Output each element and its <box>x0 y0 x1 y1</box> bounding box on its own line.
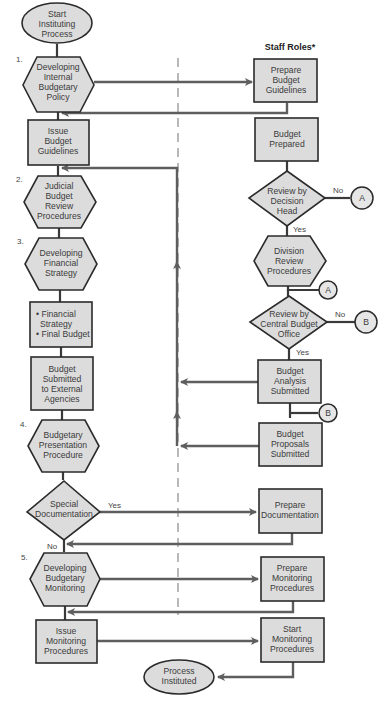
bullet-item: • Financial <box>36 309 76 319</box>
developing-monitoring-hexagon[interactable]: Developing Budgetary Monitoring <box>30 553 100 606</box>
node-label: Decision <box>271 196 304 206</box>
connector-a-out[interactable]: A <box>351 187 373 209</box>
node-label: Guidelines <box>38 146 79 156</box>
node-label: Start <box>283 624 302 634</box>
node-label: Documentation <box>35 509 93 519</box>
node-label: Special <box>50 499 78 509</box>
node-label: Budget <box>276 429 304 439</box>
bullet-item: Strategy <box>40 319 73 329</box>
strategy-output-box[interactable]: • Financial Strategy • Final Budget <box>30 302 92 347</box>
prepare-budget-guidelines-box[interactable]: Prepare Budget Guidelines <box>254 59 317 102</box>
connector-b-out[interactable]: B <box>355 311 377 333</box>
step-number-2: 2. <box>16 175 23 184</box>
node-label: Review by <box>269 309 309 319</box>
budget-proposals-submitted-box[interactable]: Budget Proposals Submitted <box>259 423 322 466</box>
node-label: Prepare <box>271 65 302 75</box>
node-label: Developing <box>44 563 87 573</box>
node-label: Internal <box>44 72 73 82</box>
staff-roles-heading: Staff Roles* <box>265 42 316 52</box>
yes-label: Yes <box>108 501 121 510</box>
node-label: Analysis <box>274 376 306 386</box>
node-label: Presentation <box>39 440 87 450</box>
node-label: Budget <box>48 364 76 374</box>
node-label: Review <box>45 201 74 211</box>
yes-label: Yes <box>296 348 309 357</box>
step-number-1: 1. <box>16 55 23 64</box>
node-label: Review <box>275 256 304 266</box>
connector-b-in[interactable]: B <box>319 404 337 422</box>
connector-label: A <box>325 285 331 295</box>
node-label: Budget <box>45 191 73 201</box>
node-label: Instituting <box>39 19 76 29</box>
node-label: Budgetary <box>45 573 85 583</box>
node-label: Submitted <box>43 374 82 384</box>
developing-financial-strategy-hexagon[interactable]: Developing Financial Strategy <box>25 238 97 290</box>
special-documentation-decision[interactable]: Special Documentation <box>27 481 100 540</box>
node-label: Procedures <box>44 646 88 656</box>
review-decision-head-decision[interactable]: Review by Decision Head <box>249 171 325 226</box>
issue-monitoring-box[interactable]: Issue Monitoring Procedures <box>36 620 97 663</box>
node-label: Proposals <box>271 439 309 449</box>
judicial-review-hexagon[interactable]: Judicial Budget Review Procedures <box>24 176 96 228</box>
node-label: Financial <box>44 258 78 268</box>
connector-label: A <box>359 193 365 203</box>
budget-analysis-submitted-box[interactable]: Budget Analysis Submitted <box>258 360 321 403</box>
start-monitoring-procedures-box[interactable]: Start Monitoring Procedures <box>261 618 324 662</box>
node-label: Office <box>278 329 301 339</box>
node-label: Developing <box>40 248 83 258</box>
no-label: No <box>333 186 344 195</box>
node-label: Strategy <box>45 268 78 278</box>
node-label: Issue <box>56 626 77 636</box>
review-central-budget-office-decision[interactable]: Review by Central Budget Office <box>250 296 327 349</box>
node-label: Budgetary <box>43 430 83 440</box>
node-label: Policy <box>47 92 71 102</box>
prepare-monitoring-procedures-box[interactable]: Prepare Monitoring Procedures <box>261 557 324 601</box>
end-terminal[interactable]: Process Instituted <box>144 660 214 694</box>
no-label: No <box>47 542 58 551</box>
node-label: Budget <box>276 366 304 376</box>
division-review-hexagon[interactable]: Division Review Procedures <box>254 236 326 286</box>
node-label: Start <box>48 9 67 19</box>
budget-submitted-external-box[interactable]: Budget Submitted to External Agencies <box>31 357 93 410</box>
node-label: Monitoring <box>272 573 312 583</box>
node-label: Central Budget <box>260 319 318 329</box>
budget-process-flowchart: Staff Roles* 1. 2. 3. 4. 5. Start Instit… <box>0 0 383 701</box>
node-label: Issue <box>48 126 69 136</box>
yes-label: Yes <box>293 225 306 234</box>
node-label: Procedures <box>270 644 314 654</box>
node-label: Budget <box>44 136 72 146</box>
node-label: Instituted <box>162 676 197 686</box>
developing-internal-policy-hexagon[interactable]: Developing Internal Budgetary Policy <box>23 57 94 112</box>
node-label: Division <box>274 246 304 256</box>
node-label: Review by <box>267 186 307 196</box>
node-label: Budget <box>272 75 300 85</box>
node-label: Procedure <box>43 450 83 460</box>
prepare-documentation-box[interactable]: Prepare Documentation <box>259 489 322 533</box>
node-label: Monitoring <box>272 634 312 644</box>
step-number-3: 3. <box>17 237 24 246</box>
node-label: Prepare <box>275 500 306 510</box>
node-label: Monitoring <box>45 583 85 593</box>
start-terminal[interactable]: Start Instituting Process <box>22 3 92 43</box>
node-label: Budgetary <box>38 82 78 92</box>
node-label: Submitted <box>271 449 310 459</box>
node-label: Judicial <box>45 181 74 191</box>
node-label: Procedures <box>267 266 311 276</box>
step-number-5: 5. <box>21 553 28 562</box>
node-label: Agencies <box>44 394 79 404</box>
issue-budget-guidelines-box[interactable]: Issue Budget Guidelines <box>28 120 89 165</box>
node-label: Process <box>163 666 194 676</box>
node-label: Submitted <box>271 386 310 396</box>
connector-label: B <box>363 317 369 327</box>
node-label: Developing <box>37 62 80 72</box>
node-label: Procedures <box>270 583 314 593</box>
node-label: Budget <box>273 129 301 139</box>
node-label: Prepared <box>269 139 305 149</box>
budget-prepared-box[interactable]: Budget Prepared <box>255 118 318 161</box>
node-label: to External <box>41 384 82 394</box>
node-label: Procedures <box>37 211 81 221</box>
presentation-procedure-hexagon[interactable]: Budgetary Presentation Procedure <box>28 420 99 472</box>
node-label: Process <box>41 29 72 39</box>
connector-a-in[interactable]: A <box>319 281 337 299</box>
node-label: Monitoring <box>46 636 86 646</box>
